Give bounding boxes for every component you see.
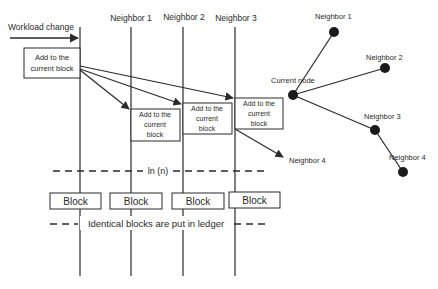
arrow-to-neighbor-4 [235, 129, 283, 157]
column-label-neighbor-3: Neighbor 3 [215, 13, 257, 23]
arrow-to-neighbor-1 [80, 70, 129, 109]
ledger-label: Identical blocks are put in ledger [88, 218, 224, 229]
node-neighbor-4 [398, 167, 408, 177]
graph-label-neighbor-2: Neighbor 2 [366, 53, 403, 62]
block-4-label: Block [242, 195, 267, 206]
block-2-label: Block [124, 196, 149, 207]
ln-n-label: ln (n) [148, 166, 169, 176]
block-1-label: Block [63, 196, 88, 207]
block-3-label: Block [186, 196, 211, 207]
box-n2-line-2: current [196, 115, 218, 122]
column-label-neighbor-1: Neighbor 1 [110, 13, 152, 23]
neighbor-4-label: Neighbor 4 [289, 156, 326, 165]
box-current-line-1: Add to the [35, 53, 69, 62]
box-current-line-2: current block [31, 64, 74, 73]
box-n3-line-2: current [248, 110, 270, 117]
workload-change-label: Workload change [8, 22, 74, 32]
graph-label-neighbor-4: Neighbor 4 [389, 153, 426, 162]
node-neighbor-3 [370, 125, 380, 135]
node-neighbor-1 [329, 27, 339, 37]
node-neighbor-2 [380, 63, 390, 73]
edge-current-n3 [293, 95, 375, 130]
box-n3-line-3: block [251, 120, 268, 127]
column-label-neighbor-2: Neighbor 2 [163, 12, 205, 22]
graph-label-current-node: Current node [271, 76, 315, 85]
box-n1-line-1: Add to the [139, 111, 171, 118]
node-current [288, 90, 298, 100]
box-n3-line-1: Add to the [243, 100, 275, 107]
box-n1-line-3: block [147, 131, 164, 138]
diagram-canvas: Neighbor 1 Neighbor 2 Neighbor 3 Workloa… [0, 0, 438, 289]
graph-label-neighbor-1: Neighbor 1 [315, 12, 352, 21]
arrow-to-neighbor-3 [80, 66, 233, 98]
edge-n3-n4 [375, 130, 403, 172]
box-n2-line-3: block [199, 125, 216, 132]
box-n1-line-2: current [144, 121, 166, 128]
box-n2-line-1: Add to the [191, 105, 223, 112]
edge-current-n1 [293, 32, 334, 95]
graph-label-neighbor-3: Neighbor 3 [364, 112, 401, 121]
